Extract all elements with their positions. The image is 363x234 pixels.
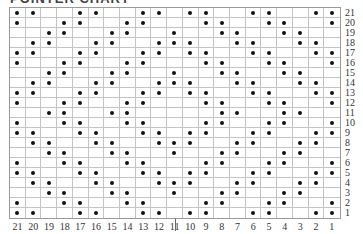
pointer-dot — [141, 121, 145, 125]
grid-cell — [293, 28, 309, 38]
grid-cell — [136, 48, 152, 58]
grid-cell — [41, 38, 57, 48]
grid-cell — [41, 128, 57, 138]
pointer-dot — [235, 191, 239, 195]
pointer-dot — [282, 61, 286, 65]
pointer-dot — [157, 131, 161, 135]
grid-cell — [151, 98, 167, 108]
pointer-dot — [125, 71, 129, 75]
pointer-dot — [15, 201, 19, 205]
grid-cell — [277, 198, 293, 208]
pointer-dot — [78, 91, 82, 95]
grid-cell — [136, 198, 152, 208]
pointer-dot — [125, 161, 129, 165]
column-label: 6 — [245, 222, 261, 232]
pointer-dot — [251, 141, 255, 145]
grid-cell — [246, 148, 262, 158]
grid-cell — [26, 68, 42, 78]
grid-cell — [261, 98, 277, 108]
column-label: 9 — [198, 222, 214, 232]
pointer-dot — [94, 211, 98, 215]
grid-cell — [136, 188, 152, 198]
pointer-dot — [251, 91, 255, 95]
grid-cell — [199, 118, 215, 128]
pointer-dot — [141, 101, 145, 105]
pointer-dot — [204, 131, 208, 135]
pointer-dot — [31, 51, 35, 55]
grid-cell — [214, 198, 230, 208]
pointer-dot — [125, 21, 129, 25]
grid-cell — [57, 78, 73, 88]
grid-cell — [136, 18, 152, 28]
grid-cell — [246, 168, 262, 178]
grid-cell — [89, 198, 105, 208]
pointer-dot — [110, 151, 114, 155]
grid-cell — [104, 58, 120, 68]
grid-cell — [214, 128, 230, 138]
grid-cell — [183, 188, 199, 198]
grid-cell — [214, 68, 230, 78]
pointer-dot — [110, 31, 114, 35]
pointer-dot — [267, 11, 271, 15]
grid-cell — [309, 48, 325, 58]
pointer-dot — [110, 191, 114, 195]
grid-cell — [57, 28, 73, 38]
grid-cell — [136, 178, 152, 188]
grid-cell — [309, 58, 325, 68]
grid-cell — [10, 28, 26, 38]
grid-cell — [136, 138, 152, 148]
grid-cell — [57, 118, 73, 128]
pointer-dot — [220, 161, 224, 165]
grid-cell — [26, 48, 42, 58]
grid-cell — [277, 68, 293, 78]
pointer-dot — [172, 31, 176, 35]
grid-cell — [214, 138, 230, 148]
grid-cell — [309, 168, 325, 178]
grid-cell — [199, 58, 215, 68]
grid-cell — [167, 138, 183, 148]
grid-cell — [136, 68, 152, 78]
pointer-dot — [330, 51, 334, 55]
pointer-dot — [141, 61, 145, 65]
grid-cell — [214, 8, 230, 18]
pointer-dot — [62, 61, 66, 65]
grid-cell — [199, 208, 215, 218]
column-label: 17 — [72, 222, 88, 232]
grid-cell — [26, 118, 42, 128]
grid-cell — [261, 38, 277, 48]
grid-cell — [104, 98, 120, 108]
pointer-dot — [188, 91, 192, 95]
grid-cell — [183, 8, 199, 18]
grid-cell — [73, 48, 89, 58]
pointer-dot — [282, 111, 286, 115]
grid-cell — [230, 88, 246, 98]
grid-cell — [324, 128, 340, 138]
grid-cell — [73, 188, 89, 198]
grid-cell — [41, 58, 57, 68]
grid-cell — [41, 198, 57, 208]
pointer-dot — [78, 161, 82, 165]
pointer-dot — [157, 171, 161, 175]
grid-cell — [89, 168, 105, 178]
grid-cell — [167, 28, 183, 38]
grid-cell — [199, 158, 215, 168]
pointer-dot — [330, 171, 334, 175]
grid-cell — [26, 38, 42, 48]
grid-cell — [120, 188, 136, 198]
pointer-dot — [282, 191, 286, 195]
grid-cell — [26, 178, 42, 188]
grid-cell — [26, 88, 42, 98]
pointer-dot — [298, 31, 302, 35]
grid-cell — [261, 68, 277, 78]
grid-cell — [10, 98, 26, 108]
pointer-dot — [31, 181, 35, 185]
pointer-dot — [157, 211, 161, 215]
pointer-dot — [141, 211, 145, 215]
grid-cell — [246, 38, 262, 48]
grid-cell — [309, 198, 325, 208]
grid-cell — [293, 128, 309, 138]
pointer-dot — [78, 101, 82, 105]
grid-cell — [277, 188, 293, 198]
grid-cell — [246, 8, 262, 18]
pointer-dot — [78, 121, 82, 125]
